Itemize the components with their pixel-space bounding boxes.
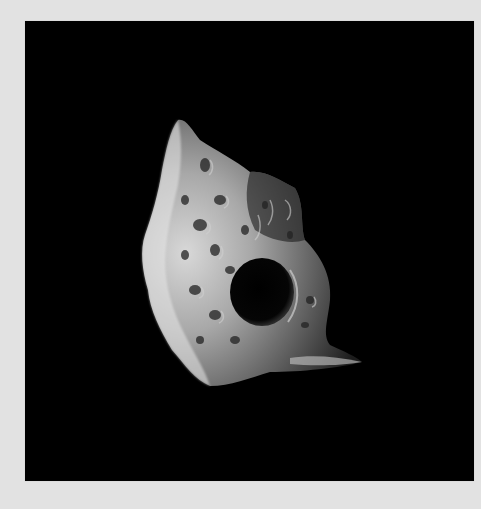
large-crater: [230, 258, 294, 326]
asteroid-image: [0, 0, 481, 509]
